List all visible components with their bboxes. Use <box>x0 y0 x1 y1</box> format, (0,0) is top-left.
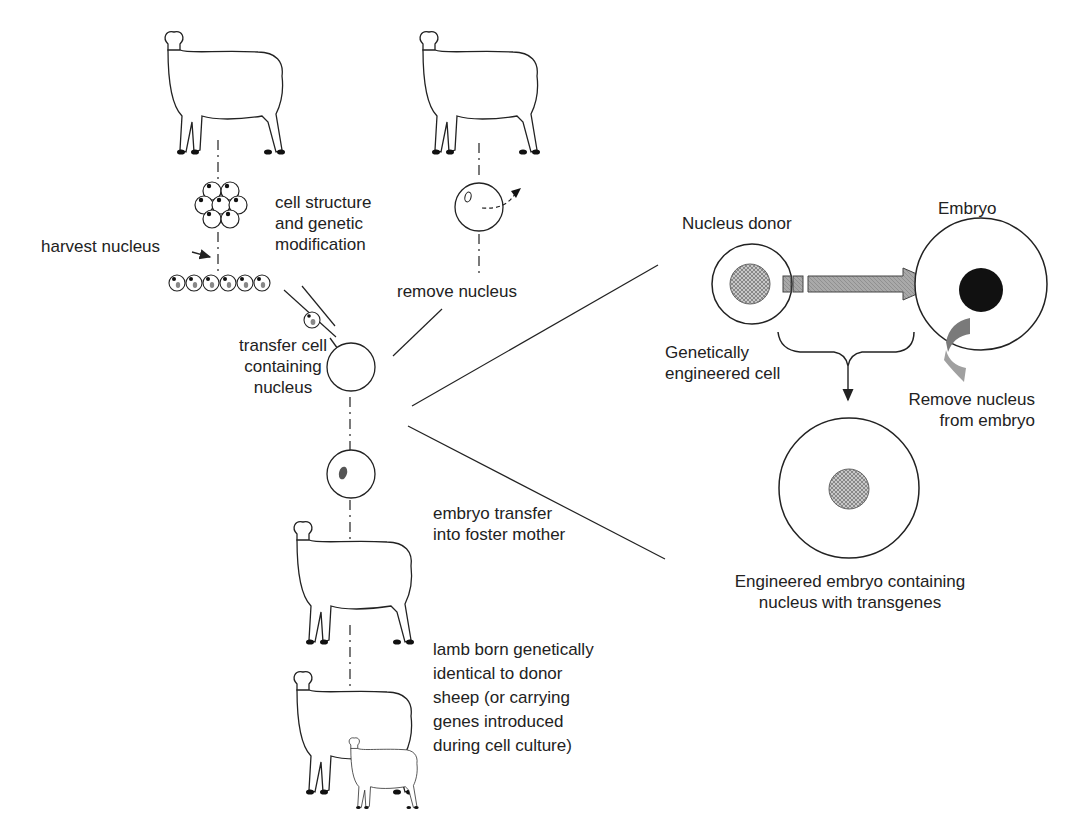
cell-row-icon <box>169 275 270 291</box>
label-line: Genetically <box>665 342 780 363</box>
embryo-title: Embryo <box>938 198 997 219</box>
label-line: during cell culture) <box>433 734 594 758</box>
harvest-nucleus-label: harvest nucleus <box>41 236 160 257</box>
engineered-embryo-label: Engineered embryo containing nucleus wit… <box>700 571 1000 613</box>
foster-mother-sheep-icon <box>294 522 414 645</box>
label-line: genes introduced <box>433 710 594 734</box>
cell-culture-label: cell structure and genetic modification <box>275 192 371 255</box>
label-line: from embryo <box>880 410 1035 431</box>
label-line: engineered cell <box>665 363 780 384</box>
remove-nucleus-label: remove nucleus <box>397 281 517 302</box>
label-line: sheep (or carrying <box>433 686 594 710</box>
transfer-cell-label: transfer cell containing nucleus <box>224 335 342 398</box>
label-line: nucleus with transgenes <box>700 592 1000 613</box>
label-line: transfer cell <box>224 335 342 356</box>
label-line: embryo transfer <box>433 503 565 524</box>
combine-brace-icon <box>778 332 914 366</box>
label-line: modification <box>275 234 371 255</box>
cell-cluster-icon <box>195 182 247 228</box>
label-line: and genetic <box>275 213 371 234</box>
lamb-born-label: lamb born genetically identical to donor… <box>433 638 594 758</box>
label-line: identical to donor <box>433 662 594 686</box>
nucleus-donor-title: Nucleus donor <box>682 213 792 234</box>
embryo-transfer-label: embryo transfer into foster mother <box>433 503 565 545</box>
enucleated-egg-icon <box>455 183 521 231</box>
embryo-cell-icon <box>915 218 1047 382</box>
label-line: containing <box>224 356 342 377</box>
harvest-arrow-icon <box>192 252 210 257</box>
donor-sheep-icon <box>165 32 285 155</box>
label-line: Remove nucleus <box>880 389 1035 410</box>
nucleus-donor-cell-icon <box>712 244 792 324</box>
engineered-cell-label: Genetically engineered cell <box>665 342 780 384</box>
embryo-icon <box>327 450 375 498</box>
label-line: nucleus <box>224 377 342 398</box>
remove-embryo-nucleus-label: Remove nucleus from embryo <box>880 389 1035 431</box>
label-line: Engineered embryo containing <box>700 571 1000 592</box>
egg-donor-sheep-icon <box>420 32 540 155</box>
label-line: lamb born genetically <box>433 638 594 662</box>
engineered-embryo-icon <box>779 418 919 558</box>
label-line: cell structure <box>275 192 371 213</box>
label-line: into foster mother <box>433 524 565 545</box>
